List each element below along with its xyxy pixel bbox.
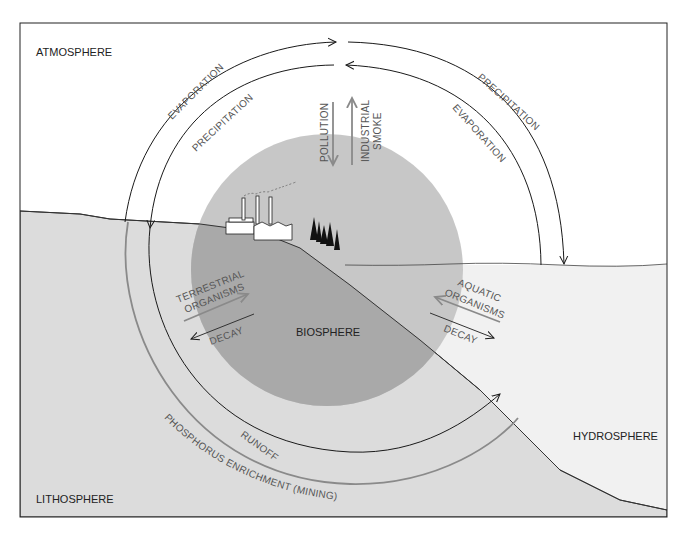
biosphere-label: BIOSPHERE <box>296 326 360 338</box>
lithosphere-label: LITHOSPHERE <box>36 493 114 505</box>
hydrosphere-label: HYDROSPHERE <box>573 430 658 442</box>
phosphorus-cycle-diagram: ATMOSPHERE BIOSPHERE HYDROSPHERE LITHOSP… <box>0 0 685 538</box>
atmosphere-label: ATMOSPHERE <box>36 46 112 58</box>
industrial-label: INDUSTRIAL <box>360 99 371 162</box>
smoke-label: SMOKE <box>372 112 383 150</box>
pollution-label: POLLUTION <box>319 103 330 162</box>
